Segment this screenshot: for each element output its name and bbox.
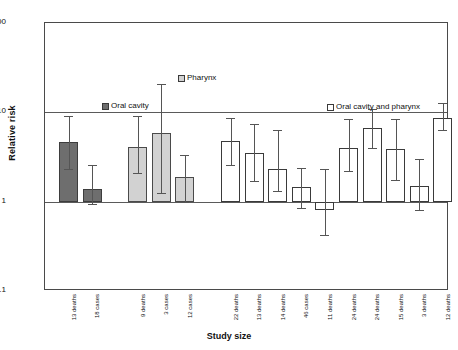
error-bar-cap-upper-5	[226, 118, 235, 119]
x-tick-label-11: 24 deaths	[374, 294, 380, 320]
error-bar-cap-upper-3	[157, 84, 166, 85]
error-bar-line-11	[372, 109, 373, 148]
error-bar-cap-lower-4	[180, 202, 189, 203]
x-axis-label: Study size	[0, 331, 458, 341]
error-bar-cap-lower-10	[344, 171, 353, 172]
error-bar-cap-lower-8	[297, 208, 306, 209]
error-bar-line-3	[161, 84, 162, 193]
y-axis-label: Relative risk	[7, 105, 17, 161]
x-tick-label-0: 13 deaths	[71, 294, 77, 320]
error-bar-line-8	[301, 168, 302, 208]
x-tick-label-5: 22 deaths	[233, 294, 239, 320]
error-bar-cap-upper-13	[415, 159, 424, 160]
legend-item-pharynx: Pharynx	[178, 74, 216, 82]
error-bar-line-4	[185, 155, 186, 201]
legend-label-pharynx: Pharynx	[187, 74, 216, 82]
error-bar-cap-lower-1	[88, 204, 97, 205]
error-bar-line-14	[443, 103, 444, 129]
x-tick-label-14: 12 deaths	[445, 294, 451, 320]
x-tick-label-10: 24 deaths	[351, 294, 357, 320]
gridline-10	[45, 112, 447, 113]
error-bar-cap-lower-11	[368, 148, 377, 149]
error-bar-line-10	[349, 119, 350, 171]
error-bar-line-7	[278, 130, 279, 191]
legend-item-oral-cavity-and-pharynx: Oral cavity and pharynx	[327, 103, 420, 111]
legend-swatch-pharynx	[178, 75, 185, 82]
relative-risk-bar-chart: Relative risk 1001010.1 Oral cavity Phar…	[0, 0, 458, 350]
error-bar-cap-upper-6	[250, 124, 259, 125]
x-tick-label-8: 46 cases	[303, 294, 309, 318]
y-tick-1: 1	[0, 197, 6, 205]
error-bar-line-1	[92, 165, 93, 204]
error-bar-cap-upper-12	[391, 119, 400, 120]
error-bar-line-13	[419, 159, 420, 210]
error-bar-cap-lower-6	[250, 181, 259, 182]
error-bar-cap-upper-4	[180, 155, 189, 156]
error-bar-line-5	[231, 118, 232, 165]
error-bar-line-9	[325, 169, 326, 235]
error-bar-cap-upper-14	[438, 103, 447, 104]
legend-swatch-oral-cavity	[102, 103, 109, 110]
error-bar-cap-lower-12	[391, 180, 400, 181]
error-bar-line-12	[396, 119, 397, 180]
plot-area: Oral cavity Pharynx Oral cavity and phar…	[44, 22, 448, 290]
error-bar-cap-upper-10	[344, 119, 353, 120]
y-tick-0.1: 0.1	[0, 286, 6, 294]
error-bar-line-2	[138, 116, 139, 172]
gridline-1	[45, 202, 447, 203]
error-bar-cap-upper-8	[297, 168, 306, 169]
error-bar-cap-lower-7	[273, 191, 282, 192]
x-tick-label-7: 14 deaths	[280, 294, 286, 320]
bar-both-14	[433, 118, 452, 201]
y-tick-10: 10	[0, 107, 6, 115]
x-tick-label-13: 3 deaths	[421, 294, 427, 317]
x-tick-label-1: 18 cases	[94, 294, 100, 318]
x-tick-label-2: 9 deaths	[140, 294, 146, 317]
error-bar-cap-upper-2	[133, 116, 142, 117]
error-bar-line-6	[254, 124, 255, 181]
error-bar-cap-lower-0	[64, 169, 73, 170]
x-tick-label-9: 11 deaths	[327, 294, 333, 320]
legend-label-oral-cavity: Oral cavity	[111, 102, 149, 110]
error-bar-cap-upper-0	[64, 116, 73, 117]
error-bar-cap-lower-2	[133, 173, 142, 174]
error-bar-cap-lower-5	[226, 165, 235, 166]
error-bar-cap-lower-13	[415, 210, 424, 211]
x-tick-label-12: 15 deaths	[398, 294, 404, 320]
error-bar-line-0	[69, 116, 70, 170]
legend-swatch-oral-cavity-and-pharynx	[327, 104, 334, 111]
x-tick-label-6: 13 deaths	[256, 294, 262, 320]
error-bar-cap-lower-3	[157, 193, 166, 194]
error-bar-cap-lower-14	[438, 130, 447, 131]
legend-label-oral-cavity-and-pharynx: Oral cavity and pharynx	[336, 103, 420, 111]
y-tick-100: 100	[0, 18, 6, 26]
error-bar-cap-upper-1	[88, 165, 97, 166]
error-bar-cap-upper-7	[273, 130, 282, 131]
legend-item-oral-cavity: Oral cavity	[102, 102, 149, 110]
error-bar-cap-upper-9	[320, 169, 329, 170]
x-tick-label-4: 12 cases	[187, 294, 193, 318]
x-tick-label-3: 3 cases	[163, 294, 169, 315]
error-bar-cap-lower-9	[320, 235, 329, 236]
